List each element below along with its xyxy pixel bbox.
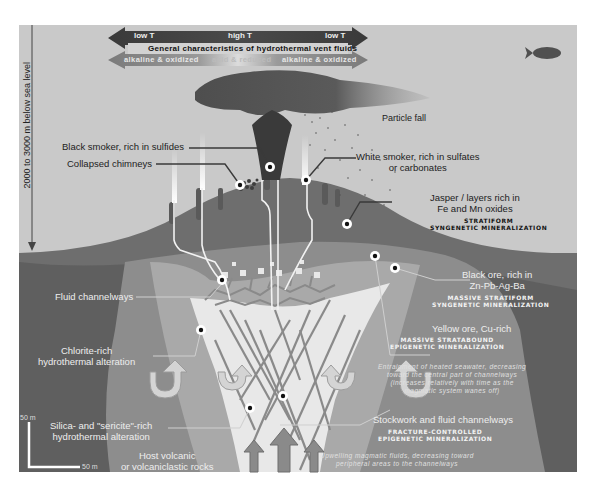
upwelling-note: Upwelling magmatic fluids, decreasing to… [320, 452, 474, 468]
header-title: General characteristics of hydrothermal … [148, 44, 357, 53]
entrainment-line1: Entrainment of heated seawater, decreasi… [378, 363, 526, 371]
particle-fall-label: Particle fall [382, 113, 426, 123]
scale-vertical-label: 50 m [20, 414, 36, 422]
hydrothermal-vent-diagram: low T high T low T General characteristi… [0, 0, 590, 491]
black-ore-label: Black ore, rich in Zn-Pb-Ag-Ba [462, 270, 532, 292]
jasper-line2: Fe and Mn oxides [430, 204, 520, 215]
black-ore-line2: Zn-Pb-Ag-Ba [462, 281, 532, 292]
temp-center-label: high T [228, 31, 252, 40]
silica-sericite-label: Silica- and "sericite"-rich hydrothermal… [50, 421, 152, 443]
chlorite-label: Chlorite-rich hydrothermal alteration [38, 346, 135, 368]
jasper-label: Jasper / layers rich in Fe and Mn oxides [430, 193, 520, 215]
entrainment-line4: magmatic system wanes off) [378, 387, 526, 395]
temp-right-label: low T [325, 31, 345, 40]
upwelling-line1: Upwelling magmatic fluids, decreasing to… [320, 452, 474, 460]
stockwork-type-line2: EPIGENETIC MINERALIZATION [378, 436, 492, 443]
white-smoker-label: White smoker, rich in sulfates or carbon… [356, 152, 480, 174]
chem-right-label: alkaline & oxidized [282, 56, 357, 65]
silica-line2: hydrothermal alteration [50, 432, 152, 443]
host-line2: or volcaniclastic rocks [121, 462, 213, 473]
black-ore-type-label: MASSIVE STRATIFORM SYNGENETIC MINERALIZA… [432, 295, 549, 309]
scale-horizontal-label: 50 m [82, 463, 98, 471]
host-rock-label: Host volcanic or volcaniclastic rocks [121, 451, 213, 473]
entrainment-line2: toward the central part of channelways [378, 371, 526, 379]
collapsed-chimneys-label: Collapsed chimneys [67, 159, 152, 170]
yellow-ore-label: Yellow ore, Cu-rich [432, 324, 511, 335]
black-ore-type-line2: SYNGENETIC MINERALIZATION [432, 302, 549, 309]
entrainment-note: Entrainment of heated seawater, decreasi… [378, 363, 526, 395]
yellow-ore-type-label: MASSIVE STRATABOUND EPIGENETIC MINERALIZ… [390, 337, 504, 351]
chlorite-line2: hydrothermal alteration [38, 357, 135, 368]
chem-center-label: acid & reduced [212, 56, 271, 65]
chem-left-label: alkaline & oxidized [124, 56, 199, 65]
jasper-type-label: STRATIFORM SYNGENETIC MINERALIZATION [430, 218, 547, 232]
stockwork-label: Stockwork and fluid channelways [373, 415, 513, 426]
upwelling-line2: peripheral areas to the channelways [320, 460, 474, 468]
depth-axis-label: 2000 to 3000 m below sea level [22, 50, 32, 200]
black-smoker-label: Black smoker, rich in sulfides [62, 142, 184, 153]
jasper-type-line2: SYNGENETIC MINERALIZATION [430, 225, 547, 232]
temp-left-label: low T [134, 31, 154, 40]
fluid-channelways-label: Fluid channelways [55, 292, 133, 303]
stockwork-type-label: FRACTURE-CONTROLLED EPIGENETIC MINERALIZ… [378, 429, 492, 443]
yellow-ore-type-line2: EPIGENETIC MINERALIZATION [390, 344, 504, 351]
white-smoker-line2: or carbonates [356, 163, 480, 174]
entrainment-line3: (increases relatively with time as the [378, 379, 526, 387]
